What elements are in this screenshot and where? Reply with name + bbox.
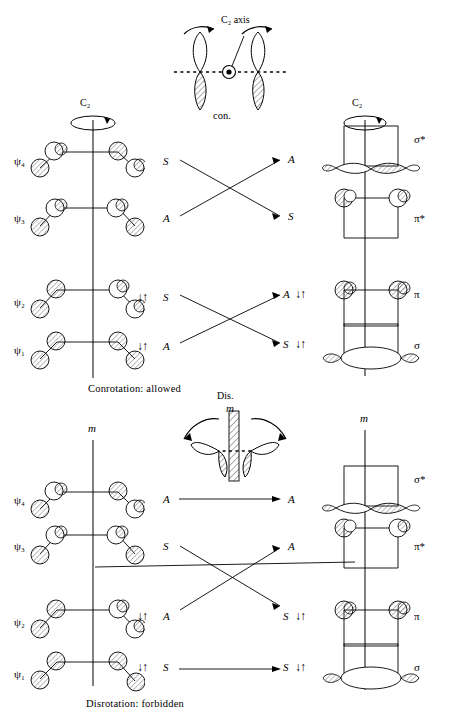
sym-label-sigma-star-dis: A [288,493,295,505]
sym-label-pi-dis: S [283,610,289,622]
sym-label-psi1-dis: S [163,661,169,673]
mo-picture-psi1-dis [30,650,145,698]
panel-conrotatory: C₂ axis con. C₂ ψ₄ ψ₃ [0,0,450,400]
inset-disrotation-graphic [175,405,295,485]
left-axis-mirror-label: m [88,422,96,434]
sym-label-psi4-dis: A [163,493,170,505]
level-label-sigma-star-dis: σ* [414,473,425,485]
mo-picture-psi3-con [30,196,145,242]
right-axis-mirror-label: m [360,412,368,424]
sym-label-psi3-dis: S [163,540,169,552]
mo-picture-psi4-con [30,138,145,184]
correlation-arrows-crossing-dis [175,538,290,618]
level-label-psi4-dis: ψ₄ [14,494,25,506]
inset-conrotation-graphic [170,18,290,113]
inset-mirror-label: m [226,402,234,414]
sym-label-psi2-dis: A [163,610,170,622]
sym-label-pi-star-dis: A [288,540,295,552]
panel-disrotatory: Dis. m m ψ₄ ψ₃ ψ [0,380,450,720]
sym-label-sigma-con: S [283,338,289,350]
level-label-sigma-dis: σ [414,661,420,673]
inset-c2-axis-label: C₂ axis [221,14,250,25]
caption-disrotation: Disrotation: forbidden [86,698,184,709]
level-label-sigma-star-con: σ* [414,133,425,145]
correlation-arrows-lower-con [175,287,290,352]
level-label-psi4-con: ψ₄ [14,155,25,167]
sym-label-sigma-star-con: A [288,153,295,165]
level-label-sigma-con: σ [414,339,420,351]
correlation-arrow-psi1-dis [175,662,290,678]
right-axis-c2-label: C₂ [352,97,362,108]
electron-pair-sigma-con: ↓↑ [295,338,305,350]
electron-pair-psi1-dis: ↓↑ [137,661,147,673]
mo-picture-sigma-con [322,322,422,380]
level-label-pi-star-con: π* [414,212,425,224]
level-label-psi1-con: ψ₁ [14,344,25,356]
mo-picture-psi4-dis [30,478,145,526]
level-label-pi-dis: π [414,610,420,622]
mo-picture-pi-star-dis [322,516,422,578]
sym-label-pi-con: A [283,288,290,300]
electron-pair-sigma-dis: ↓↑ [295,661,305,673]
correlation-arrow-psi4-dis [175,492,290,508]
electron-pair-psi2-dis: ↓↑ [137,610,147,622]
sym-label-psi2-con: S [163,291,169,303]
mo-picture-sigma-star-dis [322,464,422,524]
mo-picture-psi1-con [30,330,145,376]
level-label-psi1-dis: ψ₁ [14,668,25,680]
level-label-pi-star-dis: π* [414,540,425,552]
sym-label-psi3-con: A [163,212,170,224]
level-label-psi2-dis: ψ₂ [14,616,25,628]
mo-picture-psi2-dis [30,598,145,646]
inset-dis-label: Dis. [217,390,233,401]
mo-picture-psi2-con [30,278,145,324]
sym-label-sigma-dis: S [283,661,289,673]
sym-label-psi4-con: S [163,155,169,167]
mo-picture-sigma-dis [322,642,422,700]
electron-pair-pi-con: ↓↑ [295,288,305,300]
electron-pair-pi-dis: ↓↑ [295,610,305,622]
left-axis-c2-label: C₂ [80,97,90,108]
level-label-psi2-con: ψ₂ [14,296,25,308]
electron-pair-psi2-con: ↓↑ [137,291,147,303]
level-label-psi3-dis: ψ₃ [14,540,25,552]
electron-pair-psi1-con: ↓↑ [137,340,147,352]
level-label-pi-con: π [414,288,420,300]
sym-label-psi1-con: A [163,340,170,352]
mo-picture-pi-star-con [322,186,422,248]
mo-picture-sigma-star-con [322,124,422,184]
inset-con-mode-label: con. [213,110,231,121]
correlation-arrows-upper-con [175,150,290,235]
sym-label-pi-star-con: S [288,210,294,222]
level-label-psi3-con: ψ₃ [14,212,25,224]
